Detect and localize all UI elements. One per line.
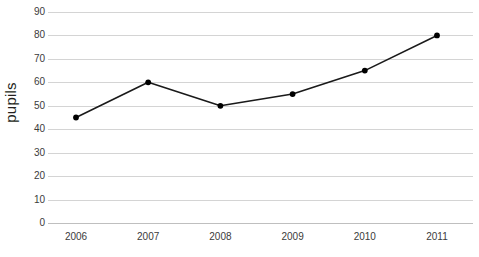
data-point-2011 — [434, 33, 440, 39]
series-line-pupils — [76, 35, 437, 117]
x-tick-label-2006: 2006 — [65, 232, 87, 242]
data-point-2010 — [362, 68, 368, 74]
plot-area: 200620072008200920102011 — [48, 0, 473, 257]
y-tick-label-70: 70 — [20, 54, 45, 64]
data-point-2008 — [218, 103, 224, 109]
y-tick-label-20: 20 — [20, 171, 45, 181]
data-series-line — [48, 0, 473, 257]
x-tick-label-2011: 2011 — [426, 232, 448, 242]
y-tick-label-0: 0 — [20, 218, 45, 228]
y-axis-title: pupils — [2, 63, 19, 143]
x-tick-label-2010: 2010 — [354, 232, 376, 242]
y-tick-label-30: 30 — [20, 148, 45, 158]
y-tick-label-80: 80 — [20, 30, 45, 40]
x-tick-label-2009: 2009 — [281, 232, 303, 242]
y-tick-label-40: 40 — [20, 124, 45, 134]
data-point-2009 — [290, 91, 296, 97]
x-tick-label-2008: 2008 — [209, 232, 231, 242]
data-point-2006 — [73, 115, 79, 121]
y-tick-label-10: 10 — [20, 195, 45, 205]
x-tick-label-2007: 2007 — [137, 232, 159, 242]
y-tick-label-60: 60 — [20, 77, 45, 87]
y-tick-label-50: 50 — [20, 101, 45, 111]
data-point-2007 — [145, 79, 151, 85]
y-tick-label-90: 90 — [20, 7, 45, 17]
line-chart: pupils 0102030405060708090 2006200720082… — [0, 0, 479, 257]
y-axis-tick-labels: 0102030405060708090 — [20, 0, 45, 257]
